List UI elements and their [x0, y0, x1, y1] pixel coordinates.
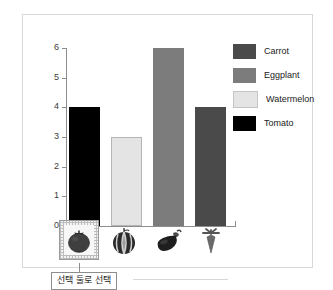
category-icon-carrot[interactable]: [191, 220, 231, 260]
bar-chart-plot: 0123456: [41, 35, 236, 230]
legend-label: Tomato: [264, 118, 294, 128]
y-axis-tick-label: 4: [41, 102, 59, 111]
legend-label: Eggplant: [264, 70, 300, 80]
y-axis-tick-label: 2: [41, 162, 59, 171]
tomato-icon: [60, 221, 98, 259]
eggplant-icon: [149, 220, 189, 260]
legend-item-eggplant[interactable]: Eggplant: [233, 67, 300, 83]
category-icon-tomato[interactable]: [59, 220, 99, 260]
bar-carrot[interactable]: [195, 107, 226, 226]
legend-label: Watermelon: [266, 94, 314, 104]
legend-swatch: [233, 91, 258, 108]
bar-watermelon[interactable]: [111, 137, 142, 226]
legend-item-watermelon[interactable]: Watermelon: [233, 91, 314, 107]
legend-item-tomato[interactable]: Tomato: [233, 115, 294, 131]
legend-label: Carrot: [264, 46, 289, 56]
watermelon-icon: [104, 220, 144, 260]
carrot-icon: [191, 220, 231, 260]
chart-panel: 0123456: [22, 14, 313, 268]
category-icon-strip[interactable]: [59, 220, 234, 264]
category-icon-watermelon[interactable]: [104, 220, 144, 260]
selection-callout-label: 선택 둘로 선택: [51, 272, 117, 290]
legend-swatch: [233, 44, 256, 59]
legend-swatch: [233, 68, 256, 83]
y-axis-tick-label: 6: [41, 43, 59, 52]
y-axis-tick-label: 0: [41, 221, 59, 230]
bar-tomato[interactable]: [69, 107, 100, 226]
bar-series-group: [67, 35, 236, 227]
category-icon-eggplant[interactable]: [149, 220, 189, 260]
y-axis-tick-label: 1: [41, 191, 59, 200]
callout-baseline-rule: [133, 279, 228, 280]
legend-swatch: [233, 116, 256, 131]
y-axis-tick-label: 5: [41, 73, 59, 82]
legend-item-carrot[interactable]: Carrot: [233, 43, 289, 59]
y-axis-tick-label: 3: [41, 132, 59, 141]
bar-eggplant[interactable]: [153, 48, 184, 226]
